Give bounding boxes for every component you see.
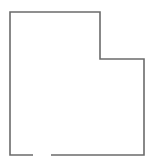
outline-shape-group: [10, 12, 144, 155]
drawing-canvas: [0, 0, 159, 165]
shape-outline-svg: [0, 0, 159, 165]
outline-main-path: [10, 12, 144, 155]
